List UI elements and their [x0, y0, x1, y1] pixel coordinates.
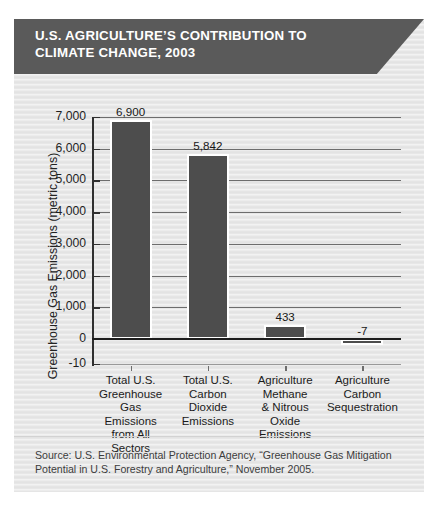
y-axis-tick-label: 3,000 — [30, 236, 86, 250]
x-axis-category-line: Emissions — [170, 415, 245, 429]
y-axis-tick-label: 7,000 — [30, 109, 86, 123]
x-axis-tick — [208, 366, 209, 371]
source-note: Source: U.S. Environmental Protection Ag… — [35, 448, 407, 477]
x-axis-category-label: AgricultureMethane& NitrousOxideEmission… — [248, 374, 323, 442]
x-axis-category-line: Sequestration — [325, 401, 400, 415]
x-axis-category-label: Total U.S.GreenhouseGas Emissionsfrom Al… — [93, 374, 168, 456]
x-axis-category-line: Total U.S. — [93, 374, 168, 388]
x-axis-category-line: Methane — [248, 388, 323, 402]
page-title: U.S. AGRICULTURE’S CONTRIBUTION TO CLIMA… — [35, 28, 365, 61]
x-axis-tick — [131, 366, 132, 371]
bar — [110, 120, 152, 339]
x-axis-category-label: AgricultureCarbonSequestration — [325, 374, 400, 415]
zero-line — [92, 338, 401, 340]
y-axis-tick-label: -10 — [30, 356, 86, 370]
bar-value-label: -7 — [328, 324, 396, 337]
y-axis-tick-label: 1,000 — [30, 299, 86, 313]
y-axis-tick-label: 0 — [30, 331, 86, 345]
bar — [187, 154, 229, 339]
x-axis-category-line: Oxide — [248, 415, 323, 429]
bar — [264, 325, 306, 339]
y-axis-tick-label: 6,000 — [30, 141, 86, 155]
chart-area: Greenhouse Gas Emissions (metric tons) 7… — [14, 74, 424, 436]
x-axis-category-line: Greenhouse — [93, 388, 168, 402]
x-axis-tick-labels: Total U.S.GreenhouseGas Emissionsfrom Al… — [92, 374, 401, 436]
bar-value-label: 6,900 — [97, 105, 165, 118]
y-axis-tick-label: 5,000 — [30, 172, 86, 186]
figure-page: U.S. AGRICULTURE’S CONTRIBUTION TO CLIMA… — [0, 0, 439, 511]
gridline — [92, 364, 401, 365]
x-axis-category-line: Gas Emissions — [93, 401, 168, 428]
y-axis-tick-label: 4,000 — [30, 204, 86, 218]
y-axis-line — [92, 117, 94, 366]
y-axis-tick-label: 2,000 — [30, 268, 86, 282]
x-axis-tick — [362, 366, 363, 371]
x-axis-category-label: Total U.S.CarbonDioxideEmissions — [170, 374, 245, 428]
x-axis-category-line: Carbon — [325, 388, 400, 402]
x-axis-category-line: Agriculture — [325, 374, 400, 388]
bar-value-label: 433 — [251, 310, 319, 323]
x-axis-category-line: Carbon — [170, 388, 245, 402]
source-divider — [14, 436, 424, 437]
bar-value-label: 5,842 — [174, 139, 242, 152]
x-axis-category-line: Dioxide — [170, 401, 245, 415]
y-axis-tick-labels: 7,0006,0005,0004,0003,0002,0001,0000-10 — [26, 117, 86, 366]
title-banner: U.S. AGRICULTURE’S CONTRIBUTION TO CLIMA… — [14, 19, 424, 74]
x-axis-category-line: Agriculture — [248, 374, 323, 388]
x-axis-category-line: & Nitrous — [248, 401, 323, 415]
chart-panel: U.S. AGRICULTURE’S CONTRIBUTION TO CLIMA… — [14, 19, 424, 492]
x-axis-tick — [285, 366, 286, 371]
plot-region: 6,9005,842433-7 — [92, 117, 401, 366]
x-axis-category-line: Total U.S. — [170, 374, 245, 388]
